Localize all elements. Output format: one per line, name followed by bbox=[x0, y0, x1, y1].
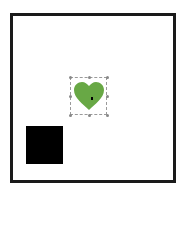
resize-handle-sw[interactable] bbox=[69, 114, 72, 117]
heart-shape[interactable] bbox=[73, 81, 105, 111]
resize-handle-s[interactable] bbox=[88, 114, 91, 117]
resize-handle-ne[interactable] bbox=[106, 76, 109, 79]
black-square-shape[interactable] bbox=[26, 126, 63, 164]
resize-handle-w[interactable] bbox=[69, 95, 72, 98]
resize-handle-e[interactable] bbox=[106, 95, 109, 98]
resize-handle-n[interactable] bbox=[88, 76, 91, 79]
resize-handle-se[interactable] bbox=[106, 114, 109, 117]
mouse-cursor bbox=[91, 97, 93, 100]
resize-handle-nw[interactable] bbox=[69, 76, 72, 79]
